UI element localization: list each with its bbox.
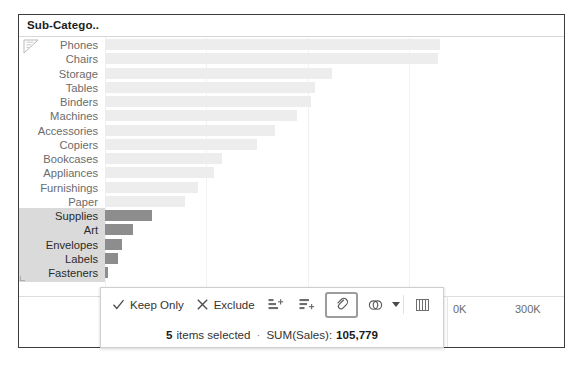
axis-tick-300k: 300K (515, 303, 541, 315)
selection-tooltip[interactable]: Keep Only Exclude (100, 287, 444, 348)
row-label-envelopes[interactable]: Envelopes (19, 238, 98, 252)
chart-row[interactable]: Storage (19, 67, 564, 81)
row-label-paper[interactable]: Paper (19, 195, 98, 209)
row-label-machines[interactable]: Machines (19, 109, 98, 123)
row-label-copiers[interactable]: Copiers (19, 138, 98, 152)
selected-count-text: items selected (176, 328, 250, 341)
row-label-binders[interactable]: Binders (19, 95, 98, 109)
bar-tables[interactable] (105, 82, 315, 93)
axis-separator-right (447, 296, 448, 347)
bar-supplies[interactable] (105, 210, 152, 221)
bar-chairs[interactable] (105, 53, 438, 64)
view-data-icon (415, 298, 430, 312)
chart-row[interactable]: Envelopes (19, 238, 564, 252)
row-label-accessories[interactable]: Accessories (19, 124, 98, 138)
row-label-labels[interactable]: Labels (19, 252, 98, 266)
bar-labels[interactable] (105, 253, 118, 264)
exclude-label: Exclude (214, 299, 255, 311)
chart-row[interactable]: Bookcases (19, 152, 564, 166)
toolbar-divider (403, 295, 404, 314)
field-header-label[interactable]: Sub-Catego.. (27, 19, 99, 31)
group-members-icon (334, 297, 349, 312)
check-icon (112, 298, 125, 311)
row-label-phones[interactable]: Phones (19, 38, 98, 52)
bar-copiers[interactable] (105, 139, 257, 150)
create-set-icon (368, 298, 383, 312)
measure-value: 105,779 (336, 328, 378, 341)
bar-furnishings[interactable] (105, 182, 198, 193)
chart-row[interactable]: Appliances (19, 166, 564, 180)
keep-only-label: Keep Only (130, 299, 184, 311)
chart-row[interactable]: Labels (19, 252, 564, 266)
chart-row[interactable]: Paper (19, 195, 564, 209)
view-data-button[interactable] (409, 292, 436, 317)
chart-row[interactable]: Supplies (19, 209, 564, 223)
create-set-caret-icon[interactable] (392, 302, 400, 307)
bar-envelopes[interactable] (105, 239, 122, 250)
row-label-art[interactable]: Art (19, 223, 98, 237)
bar-bookcases[interactable] (105, 153, 222, 164)
chart-row[interactable]: Art (19, 223, 564, 237)
chart-row[interactable]: Phones (19, 38, 564, 52)
sort-ascending-icon (268, 297, 284, 312)
sort-descending-icon (299, 297, 315, 312)
chart-row[interactable]: Binders (19, 95, 564, 109)
plot-body[interactable]: PhonesChairsStorageTablesBindersMachines… (19, 37, 564, 296)
create-set-button[interactable] (362, 292, 389, 317)
bar-machines[interactable] (105, 110, 297, 121)
bar-binders[interactable] (105, 96, 311, 107)
row-label-chairs[interactable]: Chairs (19, 52, 98, 66)
chart-row[interactable]: Copiers (19, 138, 564, 152)
sort-ascending-button[interactable] (263, 292, 290, 317)
chart-row[interactable]: Tables (19, 81, 564, 95)
selected-count: 5 (166, 328, 172, 341)
bar-paper[interactable] (105, 196, 185, 207)
row-label-tables[interactable]: Tables (19, 81, 98, 95)
row-label-storage[interactable]: Storage (19, 67, 98, 81)
bar-accessories[interactable] (105, 125, 275, 136)
chart-row[interactable]: Chairs (19, 52, 564, 66)
bar-phones[interactable] (105, 39, 440, 50)
chart-row[interactable]: Accessories (19, 124, 564, 138)
exclude-button[interactable]: Exclude (190, 292, 261, 317)
keep-only-button[interactable]: Keep Only (106, 292, 190, 317)
summary-separator: · (255, 328, 263, 341)
tooltip-toolbar: Keep Only Exclude (101, 288, 443, 321)
chart-row[interactable]: Fasteners (19, 266, 564, 280)
axis-tick-0k: 0K (453, 303, 466, 315)
x-icon (196, 298, 209, 311)
bar-storage[interactable] (105, 68, 332, 79)
field-header: Sub-Catego.. (19, 15, 564, 37)
row-label-supplies[interactable]: Supplies (19, 209, 98, 223)
group-members-button[interactable] (325, 292, 358, 318)
bar-appliances[interactable] (105, 167, 214, 178)
row-label-furnishings[interactable]: Furnishings (19, 181, 98, 195)
measure-label: SUM(Sales): (266, 328, 332, 341)
chart-row[interactable]: Machines (19, 109, 564, 123)
row-label-bookcases[interactable]: Bookcases (19, 152, 98, 166)
row-label-fasteners[interactable]: Fasteners (19, 266, 98, 280)
bar-fasteners[interactable] (105, 267, 108, 278)
row-label-appliances[interactable]: Appliances (19, 166, 98, 180)
sort-descending-button[interactable] (294, 292, 321, 317)
bar-art[interactable] (105, 224, 133, 235)
screenshot-root: Sub-Catego.. PhonesChairsStorageTablesBi… (0, 0, 583, 365)
selection-summary: 5 items selected · SUM(Sales): 105,779 (101, 321, 443, 348)
chart-row[interactable]: Furnishings (19, 181, 564, 195)
